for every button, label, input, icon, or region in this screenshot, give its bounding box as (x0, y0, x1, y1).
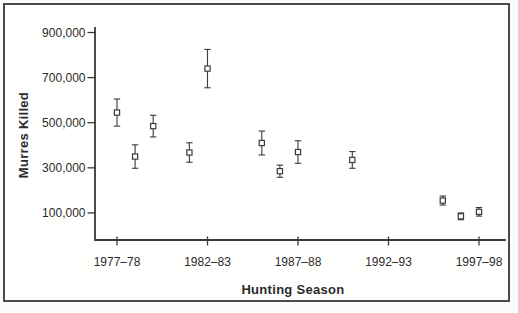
data-point (150, 115, 156, 137)
y-tick: 700,000 (42, 71, 96, 85)
data-point (295, 141, 301, 164)
x-axis-title: Hunting Season (193, 281, 393, 299)
square-marker (295, 149, 300, 154)
square-marker (476, 209, 481, 214)
data-point (186, 143, 192, 162)
x-tick-label: 1977–78 (94, 255, 141, 269)
square-marker (440, 198, 445, 203)
y-tick: 900,000 (42, 26, 96, 40)
square-marker (259, 140, 264, 145)
x-tick: 1987–88 (275, 237, 322, 270)
data-point (440, 196, 446, 205)
y-tick: 300,000 (42, 161, 96, 175)
y-tick-label: 700,000 (42, 71, 86, 85)
x-tick: 1982–83 (184, 237, 231, 270)
square-marker (151, 124, 156, 129)
y-axis-title: Murres Killed (14, 35, 34, 235)
x-tick: 1992–93 (365, 237, 412, 270)
x-tick-label: 1997–98 (456, 255, 503, 269)
axes (95, 28, 505, 240)
data-point (349, 152, 355, 169)
data-point (458, 213, 464, 220)
y-tick-label: 300,000 (42, 161, 86, 175)
square-marker (458, 214, 463, 219)
y-tick-label: 500,000 (42, 116, 86, 130)
x-tick-label: 1982–83 (184, 255, 231, 269)
square-marker (350, 157, 355, 162)
data-point (114, 99, 120, 126)
data-point (277, 165, 283, 177)
x-tick-label: 1992–93 (365, 255, 412, 269)
y-tick-label: 900,000 (42, 26, 86, 40)
data-point (132, 145, 138, 168)
murre-harvest-figure: 100,000300,000500,000700,000900,0001977–… (0, 0, 518, 313)
x-tick: 1997–98 (456, 237, 503, 270)
data-point (259, 131, 265, 155)
data-point (204, 49, 210, 87)
square-marker (205, 66, 210, 71)
y-tick: 500,000 (42, 116, 96, 130)
square-marker (277, 169, 282, 174)
x-tick: 1977–78 (94, 237, 141, 270)
chart-plot: 100,000300,000500,000700,000900,0001977–… (0, 0, 518, 313)
y-tick: 100,000 (42, 206, 96, 220)
square-marker (133, 154, 138, 159)
x-tick-label: 1987–88 (275, 255, 322, 269)
square-marker (187, 150, 192, 155)
square-marker (114, 110, 119, 115)
y-tick-label: 100,000 (42, 206, 86, 220)
data-point (476, 208, 482, 217)
